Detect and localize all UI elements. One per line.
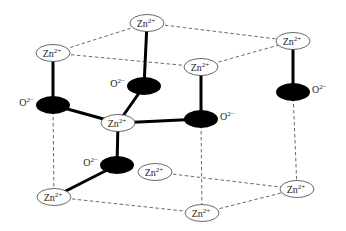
- oxygen-atom-o-far-right: O2−: [276, 83, 327, 101]
- crystal-structure-svg: O2−O2−O2−O2−O2− Zn2+Zn2+Zn2+Zn2+Zn2+Zn2+…: [0, 0, 346, 231]
- oxygen-ellipse: [184, 110, 218, 128]
- cell-edge-dashed: [293, 92, 297, 189]
- oxygen-label: O2−: [220, 110, 235, 122]
- zinc-atom-zn-top-back: Zn2+: [130, 15, 164, 32]
- oxygen-ellipse: [276, 83, 310, 101]
- oxygen-atom-o-left: O2−: [19, 96, 70, 114]
- oxygen-ellipse: [36, 96, 70, 114]
- oxygen-ellipse: [127, 77, 161, 95]
- bond-line: [144, 23, 147, 86]
- zno-crystal-diagram: O2−O2−O2−O2−O2− Zn2+Zn2+Zn2+Zn2+Zn2+Zn2+…: [0, 0, 346, 231]
- oxygen-label: O2−: [110, 77, 125, 89]
- zinc-atom-zn-top-front: Zn2+: [184, 59, 218, 76]
- cell-edge-dashed: [54, 197, 202, 213]
- cell-edge-dashed: [53, 105, 54, 197]
- bonds: [53, 23, 293, 197]
- zinc-atoms: Zn2+Zn2+Zn2+Zn2+Zn2+Zn2+Zn2+Zn2+Zn2+: [36, 15, 314, 222]
- zinc-atom-zn-bottom-right: Zn2+: [280, 181, 314, 198]
- oxygen-atom-o-right: O2−: [184, 110, 235, 128]
- oxygen-ellipse: [100, 156, 134, 174]
- zinc-atom-zn-bottom-left: Zn2+: [37, 189, 71, 206]
- cell-edges: [53, 23, 297, 213]
- oxygen-label: O2−: [83, 156, 98, 168]
- oxygen-label: O2−: [312, 83, 327, 95]
- zinc-atom-zn-bottom-front: Zn2+: [185, 205, 219, 222]
- zinc-atom-zn-bottom-back: Zn2+: [138, 164, 172, 181]
- oxygen-atoms: O2−O2−O2−O2−O2−: [19, 77, 326, 174]
- oxygen-label: O2−: [19, 96, 34, 108]
- zinc-atom-zn-center: Zn2+: [101, 115, 135, 132]
- cell-edge-dashed: [201, 119, 202, 213]
- oxygen-atom-o-lower-center: O2−: [83, 156, 134, 174]
- oxygen-atom-o-upper-center: O2−: [110, 77, 161, 95]
- cell-edge-dashed: [147, 23, 293, 41]
- zinc-atom-zn-top-left: Zn2+: [36, 45, 70, 62]
- zinc-atom-zn-top-right: Zn2+: [276, 33, 310, 50]
- cell-edge-dashed: [53, 53, 201, 67]
- cell-edge-dashed: [155, 172, 297, 189]
